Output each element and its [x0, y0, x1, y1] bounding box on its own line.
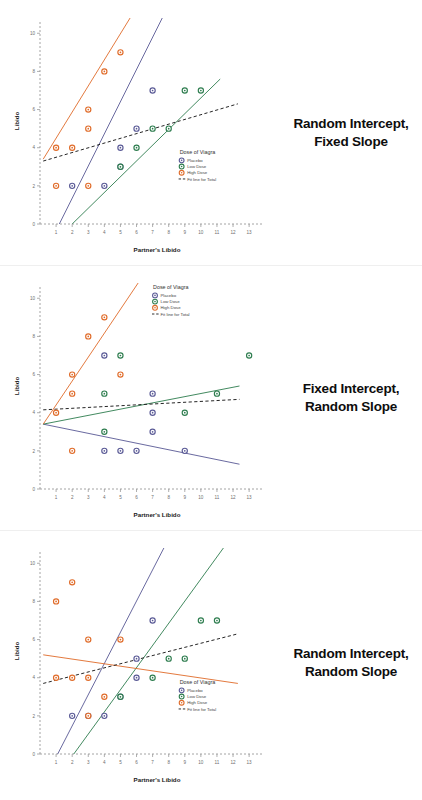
- svg-text:Partner's Libido: Partner's Libido: [134, 246, 181, 253]
- svg-text:5: 5: [119, 230, 122, 235]
- svg-text:2: 2: [32, 449, 35, 454]
- svg-text:1: 1: [55, 760, 58, 765]
- caption-line-2: Fixed Slope: [293, 133, 408, 151]
- svg-text:6: 6: [32, 637, 35, 642]
- svg-text:12: 12: [230, 760, 236, 765]
- svg-text:5: 5: [119, 760, 122, 765]
- svg-text:6: 6: [32, 107, 35, 112]
- svg-text:6: 6: [32, 372, 35, 377]
- svg-text:8: 8: [167, 495, 170, 500]
- svg-text:4: 4: [103, 495, 106, 500]
- svg-text:High Dose: High Dose: [187, 170, 208, 175]
- svg-text:Libido: Libido: [13, 377, 20, 396]
- svg-text:11: 11: [215, 495, 220, 500]
- svg-text:3: 3: [87, 495, 90, 500]
- panel-caption-fixed-intercept-random-slope: Fixed Intercept,Random Slope: [282, 265, 420, 530]
- svg-text:8: 8: [32, 69, 35, 74]
- svg-text:Placebo: Placebo: [161, 293, 177, 298]
- svg-text:7: 7: [151, 495, 154, 500]
- svg-text:4: 4: [32, 145, 35, 150]
- scatter-plot-fixed-intercept-random-slope: 024681012345678910111213Partner's Libido…: [10, 273, 268, 523]
- svg-text:Low Dose: Low Dose: [161, 299, 181, 304]
- svg-text:11: 11: [215, 760, 220, 765]
- svg-text:9: 9: [184, 230, 187, 235]
- svg-text:2: 2: [71, 230, 74, 235]
- svg-text:Partner's Libido: Partner's Libido: [134, 511, 181, 518]
- svg-text:7: 7: [151, 230, 154, 235]
- chart-panel-random-intercept-random-slope: 024681012345678910111213Partner's Libido…: [0, 530, 422, 795]
- svg-text:2: 2: [32, 714, 35, 719]
- svg-text:Dose of Viagra: Dose of Viagra: [180, 679, 216, 685]
- svg-text:2: 2: [32, 184, 35, 189]
- svg-text:2: 2: [71, 495, 74, 500]
- scatter-plot-random-intercept-random-slope: 024681012345678910111213Partner's Libido…: [10, 538, 268, 788]
- caption-line-1: Random Intercept,: [293, 645, 408, 663]
- svg-text:5: 5: [119, 495, 122, 500]
- chart-panel-random-intercept-fixed-slope: 024681012345678910111213Partner's Libido…: [0, 0, 422, 265]
- svg-text:8: 8: [167, 230, 170, 235]
- svg-text:10: 10: [30, 296, 36, 301]
- svg-text:Placebo: Placebo: [187, 158, 203, 163]
- svg-text:4: 4: [32, 675, 35, 680]
- chart-panel-fixed-intercept-random-slope: 024681012345678910111213Partner's Libido…: [0, 265, 422, 530]
- svg-text:Libido: Libido: [13, 642, 20, 661]
- svg-text:12: 12: [230, 230, 236, 235]
- svg-text:7: 7: [151, 760, 154, 765]
- scatter-plot-random-intercept-fixed-slope: 024681012345678910111213Partner's Libido…: [10, 8, 268, 258]
- svg-text:8: 8: [32, 334, 35, 339]
- svg-text:0: 0: [32, 487, 35, 492]
- svg-text:Partner's Libido: Partner's Libido: [134, 776, 181, 783]
- svg-text:1: 1: [55, 495, 58, 500]
- panel-caption-random-intercept-random-slope: Random Intercept,Random Slope: [282, 530, 420, 795]
- svg-text:10: 10: [198, 495, 204, 500]
- svg-text:1: 1: [55, 230, 58, 235]
- svg-text:6: 6: [135, 760, 138, 765]
- svg-text:0: 0: [32, 752, 35, 757]
- svg-text:4: 4: [103, 760, 106, 765]
- svg-text:11: 11: [215, 230, 220, 235]
- svg-text:2: 2: [71, 760, 74, 765]
- svg-text:High Dose: High Dose: [161, 305, 182, 310]
- svg-text:0: 0: [32, 222, 35, 227]
- svg-text:8: 8: [167, 760, 170, 765]
- svg-text:10: 10: [30, 31, 36, 36]
- caption-line-1: Fixed Intercept,: [303, 380, 400, 398]
- slide-root: 024681012345678910111213Partner's Libido…: [0, 0, 422, 795]
- svg-text:Low Dose: Low Dose: [187, 694, 207, 699]
- caption-line-2: Random Slope: [303, 398, 400, 416]
- svg-text:6: 6: [135, 495, 138, 500]
- svg-text:9: 9: [184, 760, 187, 765]
- caption-line-1: Random Intercept,: [293, 115, 408, 133]
- svg-text:Placebo: Placebo: [187, 688, 203, 693]
- svg-text:10: 10: [30, 561, 36, 566]
- svg-text:13: 13: [247, 760, 253, 765]
- svg-text:Fit line for Total: Fit line for Total: [187, 177, 216, 182]
- svg-text:13: 13: [247, 230, 253, 235]
- svg-text:12: 12: [230, 495, 236, 500]
- svg-text:3: 3: [87, 760, 90, 765]
- svg-text:8: 8: [32, 599, 35, 604]
- svg-text:6: 6: [135, 230, 138, 235]
- svg-text:Dose of Viagra: Dose of Viagra: [153, 284, 189, 290]
- panel-caption-random-intercept-fixed-slope: Random Intercept,Fixed Slope: [282, 0, 420, 265]
- svg-text:Libido: Libido: [13, 112, 20, 131]
- svg-text:Fit line for Total: Fit line for Total: [187, 707, 216, 712]
- svg-text:10: 10: [198, 760, 204, 765]
- svg-text:High Dose: High Dose: [187, 700, 208, 705]
- caption-line-2: Random Slope: [293, 663, 408, 681]
- svg-text:Fit line for Total: Fit line for Total: [161, 312, 190, 317]
- svg-text:10: 10: [198, 230, 204, 235]
- svg-text:Low Dose: Low Dose: [187, 164, 207, 169]
- svg-text:Dose of Viagra: Dose of Viagra: [180, 149, 216, 155]
- svg-text:4: 4: [32, 410, 35, 415]
- svg-text:3: 3: [87, 230, 90, 235]
- svg-text:4: 4: [103, 230, 106, 235]
- svg-text:13: 13: [247, 495, 253, 500]
- svg-text:9: 9: [184, 495, 187, 500]
